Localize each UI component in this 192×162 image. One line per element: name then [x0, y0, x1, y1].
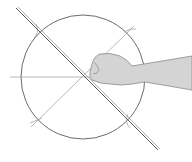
geometry-diagram — [0, 0, 192, 162]
hand — [90, 53, 192, 90]
